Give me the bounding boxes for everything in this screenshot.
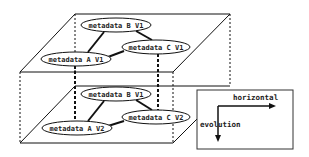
- edge-A2-C2: [108, 121, 124, 126]
- edge-A2-B2: [88, 101, 104, 121]
- node-label: metadata C V1: [129, 44, 184, 52]
- node-C2: metadata C V2: [122, 110, 190, 124]
- horizontal-label: horizontal: [233, 93, 278, 102]
- node-B2: metadata B V1: [81, 87, 151, 101]
- node-B1: metadata B V1: [81, 18, 151, 32]
- metadata-evolution-diagram: metadata B V1 metadata C V1 metadata A V…: [0, 0, 309, 157]
- legend: horizontal evolution: [197, 90, 293, 149]
- edge-A1-B1: [88, 32, 104, 52]
- node-label: metadata A V1: [49, 56, 104, 64]
- edge-B2-C2: [136, 100, 152, 110]
- edge-B1-C1: [136, 31, 152, 40]
- node-label: metadata C V2: [129, 114, 184, 122]
- node-A1: metadata A V1: [41, 52, 111, 66]
- node-C1: metadata C V1: [122, 40, 190, 54]
- evolution-label: evolution: [200, 120, 241, 129]
- node-A2: metadata A V2: [42, 121, 112, 135]
- node-label: metadata B V1: [89, 91, 144, 99]
- node-label: metadata A V2: [50, 125, 105, 133]
- edge-A1-C1: [108, 51, 124, 57]
- node-label: metadata B V1: [89, 22, 144, 30]
